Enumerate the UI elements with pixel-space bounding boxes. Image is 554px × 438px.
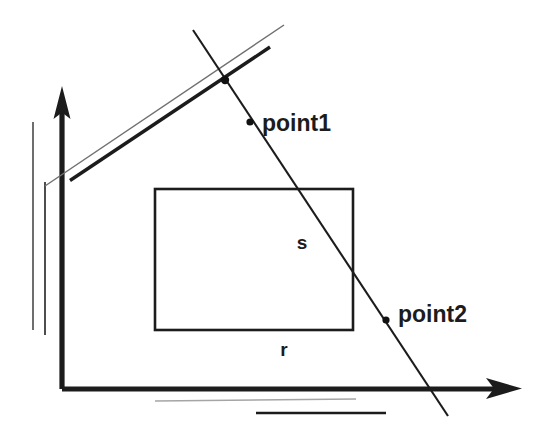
descending-line-s — [193, 30, 448, 416]
ascending-line-thin — [45, 25, 284, 186]
point2-label: point2 — [398, 301, 467, 327]
point1-label: point1 — [262, 110, 331, 136]
geometry-diagram: point1 point2 s r — [0, 0, 554, 438]
rectangle-r-label: r — [280, 339, 288, 360]
intersection-point-dot — [221, 76, 229, 84]
point1-dot — [246, 118, 253, 125]
diagram-canvas: point1 point2 s r — [0, 0, 554, 438]
ascending-line-thick — [70, 47, 270, 181]
point2-dot — [382, 316, 389, 323]
rectangle-r — [155, 189, 353, 330]
stray-mark-bottom-horizontal-light — [155, 399, 356, 401]
segment-s-label: s — [297, 232, 308, 253]
